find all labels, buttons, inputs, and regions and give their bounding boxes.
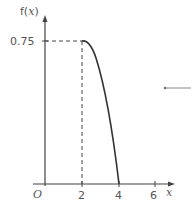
- right-point-marker: [164, 87, 166, 89]
- y-axis-arrow-icon: [43, 15, 48, 22]
- chart: f(x) 0.75 O 2 4 6 x: [0, 0, 192, 208]
- origin-label: O: [33, 188, 42, 201]
- x-tick-label-4: 4: [115, 189, 122, 202]
- x-tick-label-2: 2: [78, 189, 85, 202]
- y-tick-label: 0.75: [10, 35, 35, 48]
- function-curve: [82, 41, 119, 184]
- x-tick-label-6: 6: [150, 189, 157, 202]
- x-axis-label: x: [166, 186, 173, 199]
- y-axis-label: f(x): [20, 5, 39, 18]
